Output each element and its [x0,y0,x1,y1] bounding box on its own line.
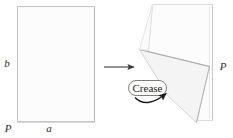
label-side-b: b [4,57,10,69]
unfolded-sheet-group [18,7,95,123]
paper-folding-figure: b P a P Crease [0,0,233,138]
label-side-a: a [46,122,52,134]
crease-callout-label: Crease [133,82,163,94]
figure-canvas: b P a P Crease [0,0,233,138]
folded-sheet-group [140,5,213,123]
label-corner-p-left: P [4,122,12,134]
crease-callout-group: Crease [129,81,167,103]
label-corner-p-right: P [219,60,227,72]
unfolded-sheet-inner-tone [19,8,94,122]
